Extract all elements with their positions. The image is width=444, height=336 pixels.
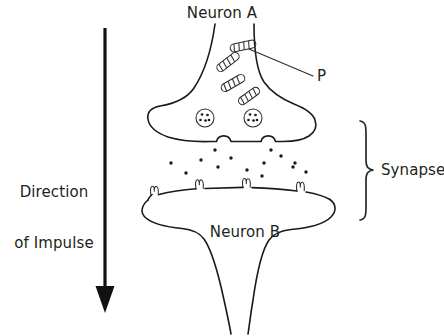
neurotransmitter — [216, 165, 219, 168]
mitochondrion-3 — [220, 73, 247, 93]
direction-of-impulse-label: Direction of Impulse — [8, 150, 100, 286]
receptors-group — [151, 179, 305, 196]
neurotransmitter — [260, 174, 263, 177]
neurotransmitter — [229, 156, 232, 159]
neurotransmitter — [199, 158, 202, 161]
impulse-arrow-head — [96, 286, 115, 313]
neurotransmitter — [279, 154, 282, 157]
neurotransmitter — [184, 171, 187, 174]
neuron-b-label: Neuron B — [175, 224, 315, 241]
receptor-3 — [243, 179, 251, 188]
vesicle-membrane — [244, 109, 262, 127]
mitochondrion-4 — [237, 86, 261, 107]
vesicle-contents — [199, 113, 210, 122]
diagram-canvas: Neuron A Neuron B P Synapse Direction of… — [0, 0, 444, 336]
neurotransmitter — [262, 161, 265, 164]
neurotransmitter — [291, 165, 294, 168]
vesicle-contents — [247, 113, 258, 122]
mitochondrion-body — [237, 86, 261, 107]
synapse-brace — [360, 121, 373, 220]
synaptic-vesicle-2 — [244, 109, 262, 127]
neuron-a-outline — [148, 24, 316, 142]
synapse-label: Synapse — [381, 162, 444, 179]
neurotransmitter — [269, 148, 272, 151]
mitochondrion-cristae — [233, 41, 250, 51]
neurotransmitter-group — [169, 148, 307, 177]
neuron-b-top-membrane — [148, 187, 330, 200]
neurotransmitter — [293, 161, 296, 164]
neuron-a-membrane — [148, 24, 316, 142]
neurotransmitter — [304, 170, 307, 173]
direction-label-line-2: of Impulse — [8, 235, 100, 252]
receptor-2 — [196, 180, 204, 189]
neuron-b-outline — [142, 187, 335, 334]
receptor-4 — [297, 182, 305, 191]
neuron-a-label: Neuron A — [0, 5, 444, 22]
vesicle-membrane — [196, 109, 214, 127]
mitochondrion-body — [220, 73, 247, 93]
synaptic-vesicle-1 — [196, 109, 214, 127]
neuron-b-body-left — [142, 200, 231, 334]
synaptic-vesicles-group — [196, 109, 262, 127]
neurotransmitter — [213, 148, 216, 151]
structure-p-label: P — [317, 68, 326, 85]
neurotransmitter — [245, 168, 248, 171]
mitochondrion-2 — [215, 51, 240, 73]
neuron-b-body-right — [248, 200, 335, 335]
mitochondria-group — [215, 39, 261, 106]
mitochondrion-body — [215, 51, 240, 73]
neurotransmitter — [169, 161, 172, 164]
direction-label-line-1: Direction — [8, 184, 100, 201]
